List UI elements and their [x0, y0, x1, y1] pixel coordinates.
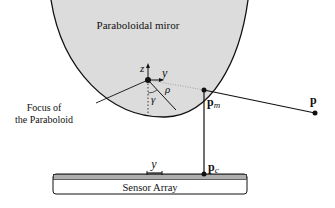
mirror-label: Paraboloidal miror	[97, 19, 180, 31]
gamma-label: γ	[151, 93, 156, 105]
pc-label: pc	[208, 160, 219, 175]
point-pm	[202, 88, 207, 93]
sensor-y-label: y	[150, 157, 157, 171]
rho-label: ρ	[164, 83, 170, 95]
point-pc	[202, 172, 207, 177]
sensor-label: Sensor Array	[122, 182, 178, 193]
focus-label-1: Focus of	[27, 102, 62, 113]
focus-point	[145, 77, 151, 83]
axis-z-label: z	[139, 62, 145, 74]
pm-label: pm	[207, 95, 221, 110]
axis-y-label: y	[161, 66, 168, 80]
p-label: p	[310, 93, 317, 107]
point-p	[313, 111, 318, 116]
paraboloid-diagram: Paraboloidal miror z y ρ γ Focus of the …	[0, 0, 335, 208]
focus-label-2: the Paraboloid	[15, 114, 73, 125]
